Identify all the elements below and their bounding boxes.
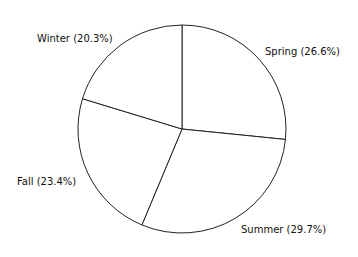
slice-label-winter: Winter (20.3%): [37, 33, 113, 44]
pie-chart: Spring (26.6%)Summer (29.7%)Fall (23.4%)…: [0, 0, 358, 257]
pie-slice-spring: [182, 25, 286, 139]
pie-slices: [78, 25, 286, 233]
slice-label-spring: Spring (26.6%): [265, 46, 340, 57]
slice-label-summer: Summer (29.7%): [241, 224, 326, 235]
slice-label-fall: Fall (23.4%): [17, 176, 76, 187]
